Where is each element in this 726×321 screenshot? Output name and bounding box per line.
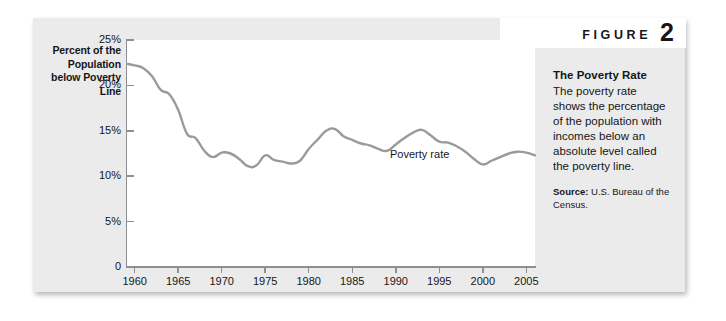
x-tick-label: 1980 [289,275,329,287]
y-axis-title-line-2: Population [33,58,121,72]
caption-title: The Poverty Rate [553,68,671,83]
x-tick-label: 1990 [376,275,416,287]
figure-card: Percent of the Population below Poverty … [33,18,685,292]
caption-column: The Poverty Rate The poverty rate shows … [553,68,671,211]
poverty-rate-series-path [126,64,535,168]
x-tick-label: 1960 [115,275,155,287]
y-tick-label: 0 [63,260,121,272]
y-tick-label: 25% [63,33,121,45]
x-tick-label: 2000 [463,275,503,287]
x-tick-label: 1985 [332,275,372,287]
poverty-rate-line-chart [126,40,536,268]
caption-body: The poverty rate shows the percentage of… [553,84,671,174]
x-tick-label: 2005 [506,275,546,287]
x-tick-label: 1965 [158,275,198,287]
figure-number-label: 2 [660,20,674,45]
figure-page: Percent of the Population below Poverty … [0,0,726,321]
y-axis-title-line-1: Percent of the [33,44,121,58]
series-annotation-label: Poverty rate [390,148,449,160]
y-tick-label: 15% [63,124,121,136]
x-tick-label: 1975 [245,275,285,287]
figure-header: FIGURE 2 [500,18,686,48]
source-label: Source: [553,186,588,197]
y-tick-label: 20% [63,78,121,90]
y-tick-label: 5% [63,215,121,227]
x-tick-label: 1970 [202,275,242,287]
figure-word-label: FIGURE [582,28,651,42]
caption-source: Source: U.S. Bureau of the Census. [553,185,671,211]
x-tick-label: 1995 [419,275,459,287]
y-tick-label: 10% [63,169,121,181]
